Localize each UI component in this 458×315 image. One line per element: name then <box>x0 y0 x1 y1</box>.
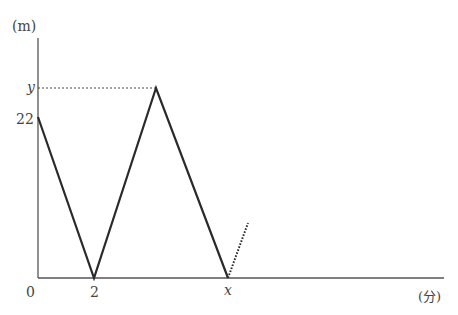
chart-canvas <box>0 0 458 315</box>
continuation-dotted-line <box>228 223 248 278</box>
x-axis-unit-label: (分) <box>418 286 441 305</box>
y-tick-22-label: 22 <box>16 111 34 127</box>
y-tick-y-label: y <box>27 79 35 95</box>
y-axis-unit-label: (m) <box>12 18 36 34</box>
x-tick-x-label: x <box>224 282 232 298</box>
x-tick-2-label: 2 <box>90 284 99 300</box>
distance-line <box>38 88 228 278</box>
origin-label: 0 <box>26 284 35 300</box>
